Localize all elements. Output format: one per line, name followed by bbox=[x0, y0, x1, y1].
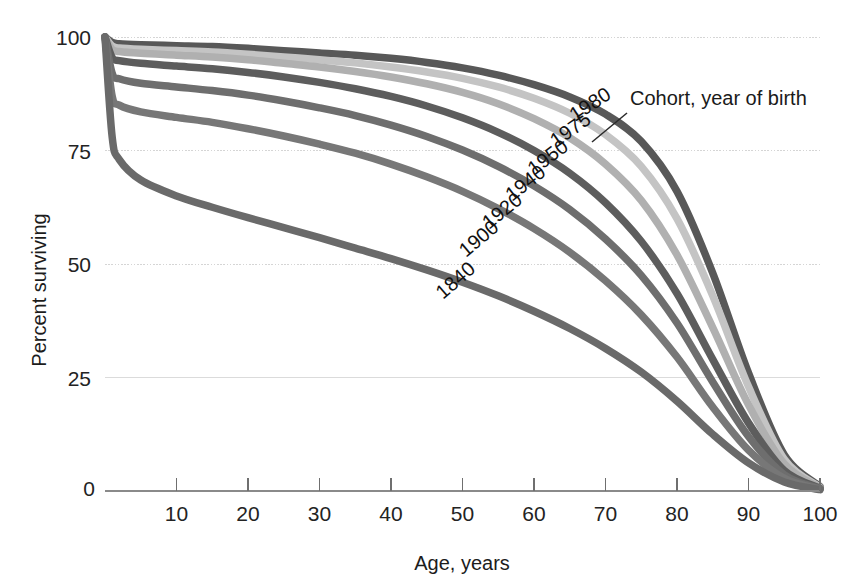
x-tick-label-0: 0 bbox=[83, 477, 95, 500]
chart-svg: 0102030405060708090100 255075100 1980197… bbox=[0, 0, 867, 584]
x-tick-label-40: 40 bbox=[379, 502, 402, 525]
cohort-annotation-text: Cohort, year of birth bbox=[630, 87, 807, 109]
x-tick-label-50: 50 bbox=[451, 502, 474, 525]
x-tick-label-10: 10 bbox=[165, 502, 188, 525]
y-axis-title: Percent surviving bbox=[28, 213, 50, 366]
x-axis-title: Age, years bbox=[414, 552, 510, 574]
x-tick-label-30: 30 bbox=[308, 502, 331, 525]
y-axis-labels: 255075100 bbox=[56, 26, 91, 390]
annotation-group: Cohort, year of birth bbox=[592, 87, 807, 142]
x-tick-label-70: 70 bbox=[594, 502, 617, 525]
y-tick-label-25: 25 bbox=[68, 367, 91, 390]
x-tick-label-90: 90 bbox=[737, 502, 760, 525]
y-tick-label-100: 100 bbox=[56, 26, 91, 49]
x-tick-label-100: 100 bbox=[802, 502, 837, 525]
x-tick-label-20: 20 bbox=[236, 502, 259, 525]
survivorship-chart: 0102030405060708090100 255075100 1980197… bbox=[0, 0, 867, 584]
x-axis: 0102030405060708090100 bbox=[83, 477, 837, 525]
x-tick-label-80: 80 bbox=[665, 502, 688, 525]
x-tick-label-60: 60 bbox=[522, 502, 545, 525]
y-tick-label-50: 50 bbox=[68, 253, 91, 276]
y-tick-label-75: 75 bbox=[68, 140, 91, 163]
